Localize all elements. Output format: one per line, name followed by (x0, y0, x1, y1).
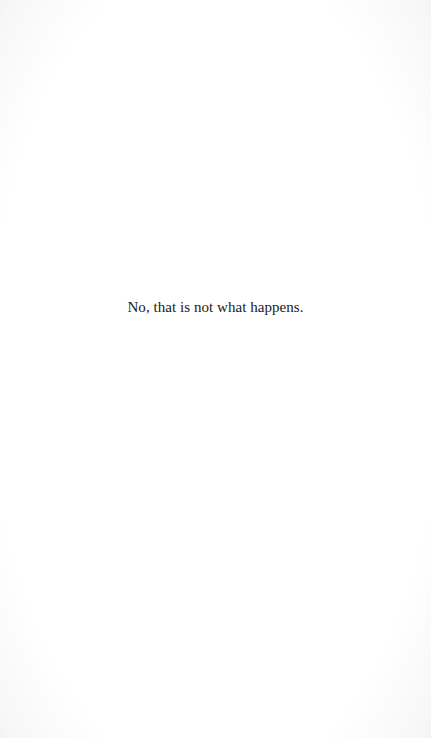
book-page: No, that is not what happens. (0, 0, 431, 738)
page-text: No, that is not what happens. (0, 298, 431, 316)
